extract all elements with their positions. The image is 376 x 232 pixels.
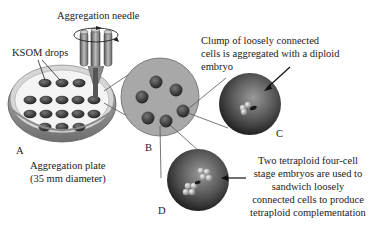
panel-label-c: C xyxy=(276,128,283,139)
well-disc-b xyxy=(121,58,199,136)
panel-label-b: B xyxy=(145,142,152,153)
label-clump-line1: Clump of loosely connected xyxy=(201,35,319,47)
label-plate-line2: (35 mm diameter) xyxy=(30,173,106,185)
label-plate-line1: Aggregation plate xyxy=(30,160,106,172)
label-tetra-line4: connected cells to produce xyxy=(238,193,376,206)
label-tetra-line3: sandwich loosely xyxy=(238,180,376,193)
label-clump-line2: cells is aggregated with a diploid xyxy=(201,48,340,60)
embryo-c xyxy=(219,67,290,135)
label-ksom-drops: KSOM drops xyxy=(12,47,68,59)
panel-label-a: A xyxy=(16,145,24,156)
label-aggregation-needle: Aggregation needle xyxy=(57,10,140,22)
label-tetra-line2: stage embryos are used to xyxy=(238,167,376,180)
label-tetraploid: Two tetraploid four-cell stage embryos a… xyxy=(238,154,376,219)
label-tetra-line5: tetraploid complementation xyxy=(238,206,376,219)
label-clump-line3: embryo xyxy=(201,61,233,73)
embryo-d xyxy=(167,149,246,211)
panel-label-d: D xyxy=(158,205,166,216)
label-tetra-line1: Two tetraploid four-cell xyxy=(238,154,376,167)
